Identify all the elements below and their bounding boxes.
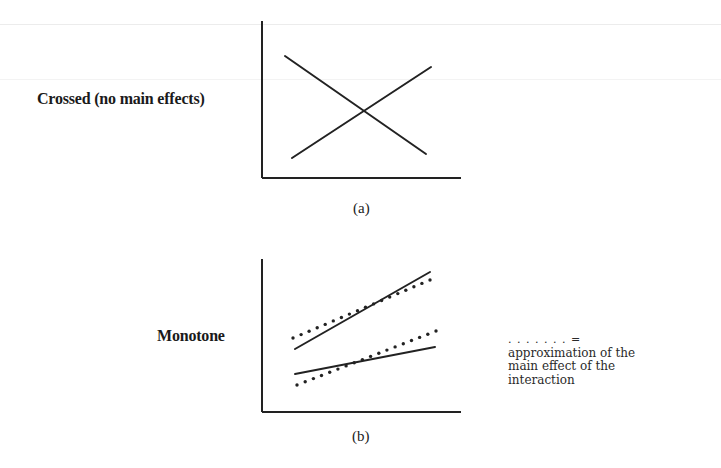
increasing-line — [292, 67, 431, 158]
legend-dotted-key: . . . . . . . = — [508, 333, 635, 347]
panel-b-caption: (b) — [352, 428, 370, 445]
panel-a-label: Crossed (no main effects) — [37, 90, 205, 108]
lower-dotted-line — [295, 329, 437, 386]
upper-solid-line — [295, 272, 430, 349]
legend-text-line-3: interaction — [508, 374, 635, 388]
legend-text-line-1: approximation of the — [508, 347, 635, 361]
upper-dotted-line — [291, 278, 431, 339]
panel-a-crossed — [262, 21, 461, 178]
legend-text-line-2: main effect of the — [508, 360, 635, 374]
decreasing-line — [285, 56, 426, 154]
panel-a-caption: (a) — [353, 200, 370, 217]
panel-b-label: Monotone — [157, 327, 225, 345]
interaction-diagram — [0, 0, 721, 468]
panel-b-monotone — [262, 259, 461, 412]
legend: . . . . . . . = approximation of the mai… — [508, 333, 635, 387]
lower-solid-line — [295, 347, 435, 374]
